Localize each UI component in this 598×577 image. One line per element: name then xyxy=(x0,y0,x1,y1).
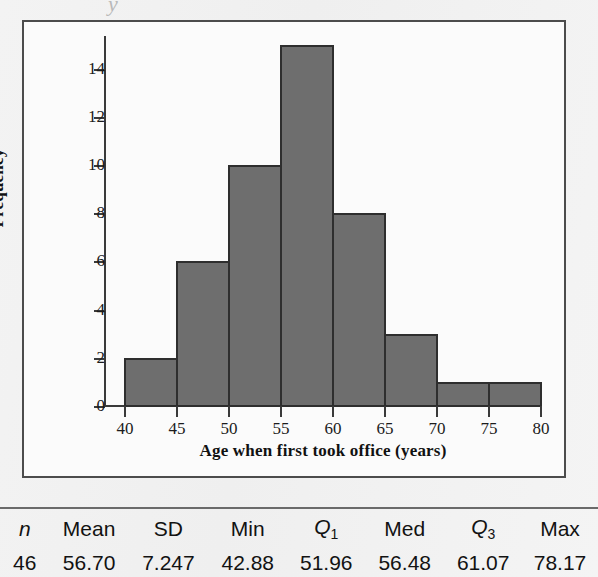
x-axis-tick-label: 50 xyxy=(207,420,251,437)
header-min: Min xyxy=(208,513,287,549)
x-axis-tick-label: 75 xyxy=(467,420,511,437)
x-axis-tick-label: 65 xyxy=(363,420,407,437)
header-mean: Mean xyxy=(49,513,128,549)
histogram-bar xyxy=(228,165,282,407)
value-sd: 7.247 xyxy=(129,549,208,577)
header-q1: Q1 xyxy=(287,513,365,549)
y-axis-tick-label: 4 xyxy=(77,301,105,318)
x-axis-tick xyxy=(228,406,230,417)
value-med: 56.48 xyxy=(365,549,444,577)
x-axis-tick-label: 45 xyxy=(155,420,199,437)
value-max: 78.17 xyxy=(522,549,598,577)
x-axis-tick-label: 55 xyxy=(259,420,303,437)
y-axis-tick-label: 14 xyxy=(77,60,105,77)
x-axis-tick xyxy=(436,406,438,417)
header-med: Med xyxy=(365,513,444,549)
y-axis-tick-label: 0 xyxy=(77,397,105,414)
histogram-bar xyxy=(384,334,438,407)
x-axis-tick xyxy=(540,406,542,417)
histogram-bar xyxy=(124,358,178,407)
x-axis-tick xyxy=(176,406,178,417)
value-q1: 51.96 xyxy=(287,549,365,577)
table-row: 46 56.70 7.247 42.88 51.96 56.48 61.07 7… xyxy=(0,549,598,577)
value-q3: 61.07 xyxy=(444,549,522,577)
summary-statistics-table: n Mean SD Min Q1 Med Q3 Max 46 56.70 7.2… xyxy=(0,513,598,577)
x-axis-tick xyxy=(384,406,386,417)
y-axis-title: Frequency xyxy=(0,118,8,258)
header-sd: SD xyxy=(129,513,208,549)
y-axis-tick-label: 2 xyxy=(77,349,105,366)
table-header-row: n Mean SD Min Q1 Med Q3 Max xyxy=(0,513,598,549)
x-axis-tick-label: 80 xyxy=(519,420,563,437)
value-mean: 56.70 xyxy=(49,549,128,577)
y-axis-tick-label: 6 xyxy=(77,252,105,269)
y-axis-tick-label: 10 xyxy=(77,156,105,173)
x-axis-tick-label: 40 xyxy=(103,420,147,437)
header-n: n xyxy=(0,513,49,549)
histogram-bar xyxy=(436,382,490,407)
x-axis-tick xyxy=(280,406,282,417)
x-axis-title: Age when first took office (years) xyxy=(104,441,542,461)
header-q3: Q3 xyxy=(444,513,522,549)
cutoff-glyph: y xyxy=(108,0,118,17)
stats-table-rule xyxy=(0,507,598,509)
histogram-bar xyxy=(332,213,386,407)
x-axis-tick xyxy=(332,406,334,417)
y-axis-tick-label: 12 xyxy=(77,108,105,125)
x-axis-tick-label: 70 xyxy=(415,420,459,437)
x-axis-tick xyxy=(488,406,490,417)
value-min: 42.88 xyxy=(208,549,287,577)
x-axis-tick-label: 60 xyxy=(311,420,355,437)
histogram-bar xyxy=(176,261,230,407)
y-axis-tick-label: 8 xyxy=(77,204,105,221)
value-n: 46 xyxy=(0,549,49,577)
page-root: y 02468101214 404550556065707580 Age whe… xyxy=(0,0,598,577)
histogram-bar xyxy=(488,382,542,407)
x-axis-tick xyxy=(124,406,126,417)
histogram-bar xyxy=(280,45,334,408)
header-max: Max xyxy=(522,513,598,549)
